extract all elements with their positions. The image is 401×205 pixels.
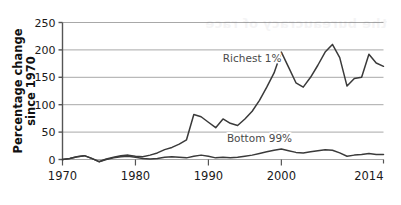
chart-figure: the bureaucracy of race 0501001502002501… <box>0 0 401 205</box>
line-chart: 05010015020025019701980199020002014Riche… <box>0 0 401 205</box>
series-label-richest-1: Richest 1% <box>223 52 282 64</box>
x-tick-label: 2014 <box>354 169 383 183</box>
series-annotations: Richest 1%Richest 1%Bottom 99%Bottom 99% <box>223 52 292 144</box>
y-axis-title-line2: since 1970 <box>24 56 38 126</box>
x-tick-label: 1990 <box>194 169 223 183</box>
y-axis-title-line1: Percentage change <box>11 28 25 153</box>
series-label-bottom-99: Bottom 99% <box>227 132 292 144</box>
y-tick-label: 200 <box>35 44 56 57</box>
grid-lines <box>63 23 384 133</box>
y-tick-label: 250 <box>35 17 56 30</box>
x-tick-label: 1980 <box>121 169 150 183</box>
x-tick-label: 2000 <box>267 169 296 183</box>
x-axis-ticks: 19701980199020002014 <box>48 160 384 183</box>
axes <box>63 23 384 161</box>
y-axis-ticks: 050100150200250 <box>35 17 63 167</box>
y-tick-label: 50 <box>42 126 56 139</box>
y-tick-label: 0 <box>49 154 56 167</box>
x-tick-label: 1970 <box>48 169 77 183</box>
